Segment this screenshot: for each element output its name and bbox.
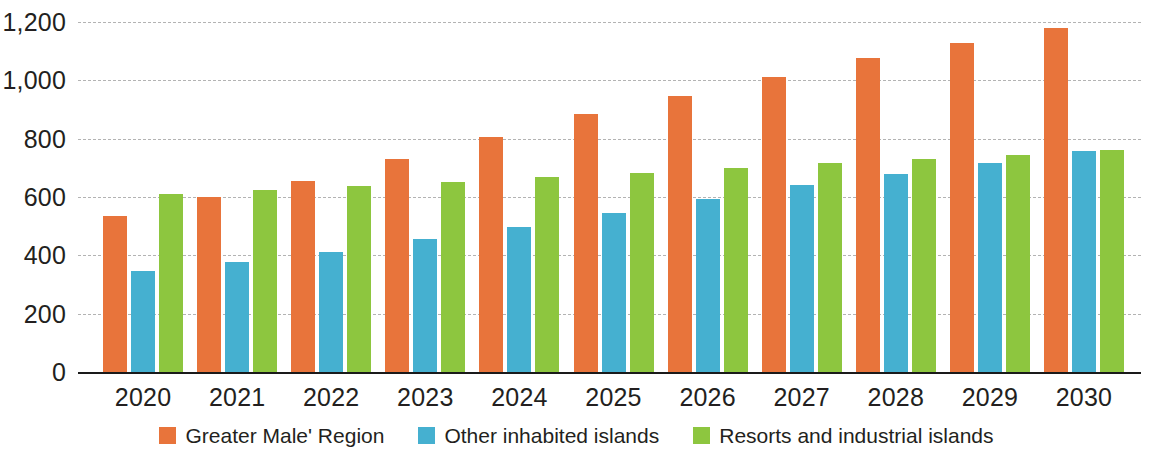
legend-label: Resorts and industrial islands: [719, 425, 993, 446]
x-axis-tick-label: 2028: [849, 380, 943, 414]
x-axis-tick-label: 2022: [284, 380, 378, 414]
bar: [413, 239, 437, 372]
y-axis-tick-label: 1,000: [2, 68, 66, 93]
bar: [668, 96, 692, 373]
legend-swatch-green: [693, 427, 710, 444]
bar-group: [190, 22, 284, 372]
bar: [385, 159, 409, 372]
bar: [479, 137, 503, 372]
legend-swatch-blue: [418, 427, 435, 444]
chart-legend: Greater Male' RegionOther inhabited isla…: [0, 425, 1153, 446]
y-axis: 02004006008001,0001,200: [0, 22, 66, 372]
bar: [950, 43, 974, 372]
bar-group: [472, 22, 566, 372]
x-axis-tick-label: 2020: [96, 380, 190, 414]
x-axis-tick-label: 2026: [661, 380, 755, 414]
bar-group: [849, 22, 943, 372]
y-axis-tick-label: 0: [52, 360, 66, 385]
bar: [1072, 151, 1096, 372]
legend-label: Other inhabited islands: [444, 425, 659, 446]
bar: [441, 182, 465, 372]
bar-group: [943, 22, 1037, 372]
bar: [1044, 28, 1068, 372]
legend-label: Greater Male' Region: [185, 425, 384, 446]
bar: [724, 168, 748, 372]
bar: [696, 199, 720, 372]
y-axis-tick-label: 400: [24, 243, 66, 268]
x-axis: 2020202120222023202420252026202720282029…: [78, 380, 1141, 414]
bar: [253, 190, 277, 372]
bar: [856, 58, 880, 372]
bar: [291, 181, 315, 372]
bar: [507, 227, 531, 372]
legend-item[interactable]: Greater Male' Region: [159, 425, 384, 446]
bar: [131, 271, 155, 372]
bar-chart: 02004006008001,0001,200 2020202120222023…: [0, 0, 1153, 462]
bar: [197, 197, 221, 372]
y-axis-tick-label: 800: [24, 126, 66, 151]
x-axis-tick-label: 2030: [1037, 380, 1131, 414]
bar: [1100, 150, 1124, 372]
y-axis-tick-label: 1,200: [2, 10, 66, 35]
bar-group: [284, 22, 378, 372]
axis-baseline: [78, 372, 1141, 374]
bar: [535, 177, 559, 372]
y-axis-tick-label: 200: [24, 301, 66, 326]
bar-group: [755, 22, 849, 372]
bar: [630, 173, 654, 372]
x-axis-tick-label: 2025: [566, 380, 660, 414]
bar: [1006, 155, 1030, 372]
bar: [790, 185, 814, 372]
bar-group: [378, 22, 472, 372]
bar-group: [96, 22, 190, 372]
x-axis-tick-label: 2021: [190, 380, 284, 414]
bar: [762, 77, 786, 372]
legend-swatch-orange: [159, 427, 176, 444]
bar: [912, 159, 936, 372]
legend-item[interactable]: Resorts and industrial islands: [693, 425, 993, 446]
plot-area: [78, 22, 1141, 372]
bar: [159, 194, 183, 373]
bar-groups: [78, 22, 1141, 372]
x-axis-tick-label: 2027: [755, 380, 849, 414]
bar-group: [566, 22, 660, 372]
bar: [103, 216, 127, 372]
bar-group: [661, 22, 755, 372]
x-axis-tick-label: 2029: [943, 380, 1037, 414]
bar: [602, 213, 626, 372]
x-axis-tick-label: 2024: [472, 380, 566, 414]
bar: [574, 114, 598, 372]
bar: [347, 186, 371, 372]
bar-group: [1037, 22, 1131, 372]
bar: [818, 163, 842, 372]
bar: [319, 252, 343, 372]
bar: [978, 163, 1002, 372]
y-axis-tick-label: 600: [24, 185, 66, 210]
bar: [225, 262, 249, 372]
bar: [884, 174, 908, 372]
x-axis-tick-label: 2023: [378, 380, 472, 414]
legend-item[interactable]: Other inhabited islands: [418, 425, 659, 446]
